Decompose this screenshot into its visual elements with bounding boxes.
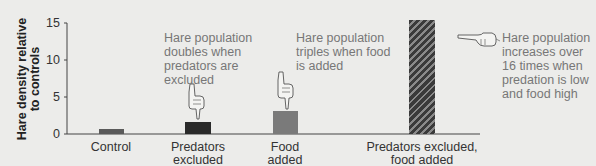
annotation-line: excluded <box>164 73 284 87</box>
y-tick-15: 15 <box>40 16 60 30</box>
pointing-hand-down-icon <box>275 70 299 112</box>
x-label-line: added <box>250 154 320 166</box>
bar-food-added <box>273 111 298 134</box>
annotation-line: 16 times when <box>502 59 596 73</box>
bar-predators-excluded <box>185 122 211 134</box>
annotation-line: and food high <box>502 87 596 101</box>
y-tick-10: 10 <box>40 53 60 67</box>
annotation-line: is added <box>296 59 416 73</box>
x-label-predators-excluded: Predators excluded <box>163 141 233 166</box>
annotation-both: Hare population increases over 16 times … <box>502 31 596 101</box>
annotation-line: predation is low <box>502 73 596 87</box>
annotation-food-added: Hare population triples when food is add… <box>296 31 416 73</box>
annotation-line: Hare population <box>502 31 596 45</box>
x-label-line: Control <box>76 141 146 154</box>
bar-control <box>99 129 124 134</box>
y-tick-0: 0 <box>40 127 60 141</box>
x-label-line: excluded <box>163 154 233 166</box>
x-label-both: Predators excluded, food added <box>362 141 482 166</box>
annotation-line: Hare population <box>164 31 284 45</box>
annotation-line: Hare population <box>296 31 416 45</box>
annotation-line: triples when food <box>296 45 416 59</box>
annotation-line: increases over <box>502 45 596 59</box>
pointing-hand-left-icon <box>456 30 500 50</box>
x-label-line: food added <box>362 154 482 166</box>
pointing-hand-down-icon <box>186 82 210 122</box>
annotation-line: doubles when <box>164 45 284 59</box>
y-tick-5: 5 <box>40 90 60 104</box>
x-label-control: Control <box>76 141 146 154</box>
x-label-food-added: Food added <box>250 141 320 166</box>
annotation-predators-excluded: Hare population doubles when predators a… <box>164 31 284 87</box>
annotation-line: predators are <box>164 59 284 73</box>
